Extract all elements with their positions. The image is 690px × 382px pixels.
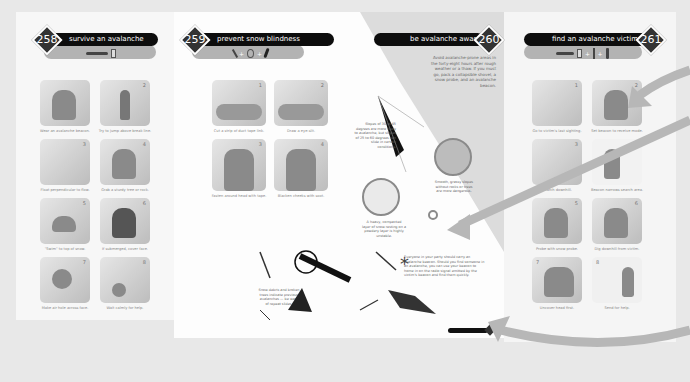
figure-illustration bbox=[112, 208, 136, 238]
shovel-icon bbox=[606, 48, 609, 59]
figure-illustration bbox=[112, 149, 136, 179]
step-caption: "Swim" to top of snow. bbox=[45, 247, 86, 252]
step-caption: Wear an avalanche beacon. bbox=[40, 129, 90, 134]
tape-illustration bbox=[216, 104, 262, 120]
magnifier-grassy-slope bbox=[434, 138, 472, 176]
plus-icon: + bbox=[239, 50, 244, 57]
plus-icon: + bbox=[598, 50, 603, 57]
step-panel: 3Float perpendicular to flow. bbox=[40, 139, 90, 198]
figure-illustration bbox=[52, 90, 76, 120]
step-panel: 1Cut a strip of duct tape link. bbox=[212, 80, 266, 139]
step-panel: 7Make air hole across face. bbox=[40, 257, 90, 316]
intro-text: Avoid avalanche-prone areas in the forty… bbox=[430, 55, 496, 88]
step-panel: 3Fasten around head with tape. bbox=[212, 139, 266, 204]
step-caption: Fasten around head with tape. bbox=[212, 194, 267, 199]
step-panel: 5"Swim" to top of snow. bbox=[40, 198, 90, 257]
step-panel: 2Draw a eye-slit. bbox=[274, 80, 328, 139]
person-illustration bbox=[224, 149, 254, 191]
figure-illustration bbox=[52, 269, 72, 289]
beacon-unit-icon bbox=[111, 49, 116, 58]
header-259: 259 prevent snow blindness + + bbox=[184, 33, 334, 63]
magnifier-snow-layers bbox=[362, 178, 400, 216]
step-caption: Grab a sturdy tree or rock. bbox=[101, 188, 149, 193]
svg-text:*: * bbox=[400, 253, 409, 274]
step-panel: 5Probe with snow probe. bbox=[532, 198, 582, 257]
figure-illustration bbox=[112, 283, 126, 297]
section-number: 258 bbox=[32, 25, 62, 55]
step-panel: 4Grab a sturdy tree or rock. bbox=[100, 139, 150, 198]
probe-icon bbox=[593, 48, 595, 59]
tool-icons bbox=[86, 49, 116, 58]
step-caption: Search downhill. bbox=[542, 188, 572, 193]
step-panel: 6Dig downhill from victim. bbox=[592, 198, 642, 257]
step-caption: Go to victim's last sighting. bbox=[532, 129, 581, 134]
avalanche-debris-illustration: * bbox=[240, 250, 440, 340]
step-panel: 2Try to jump above break line. bbox=[100, 80, 150, 139]
tape-illustration bbox=[278, 104, 324, 120]
step-panel: 7Uncover head first. bbox=[532, 257, 582, 316]
steps-grid-259: 1Cut a strip of duct tape link. 2Draw a … bbox=[212, 80, 328, 204]
step-panel: 8Wait calmly for help. bbox=[100, 257, 150, 316]
step-panel: 8Send for help. bbox=[592, 257, 642, 316]
step-caption: Send for help. bbox=[604, 306, 629, 311]
section-title: prevent snow blindness bbox=[217, 33, 300, 46]
person-illustration bbox=[604, 149, 620, 179]
plus-icon: + bbox=[585, 50, 590, 57]
note-grassy-slopes: Smooth, grassy slopes without rocks or t… bbox=[434, 180, 474, 194]
header-261: find an avalanche victim 261 + + bbox=[524, 33, 674, 63]
section-title: find an avalanche victim bbox=[552, 33, 638, 46]
step-panel: 6If submerged, cover face. bbox=[100, 198, 150, 257]
step-caption: Set beacon to receive mode. bbox=[591, 129, 643, 134]
section-title: survive an avalanche bbox=[69, 33, 144, 46]
section-title: be avalanche aware bbox=[410, 33, 481, 46]
person-illustration bbox=[544, 267, 574, 297]
step-caption: Blacken cheeks with soot. bbox=[278, 194, 325, 199]
tool-icons: + + bbox=[556, 48, 609, 59]
steps-grid-261: 1Go to victim's last sighting. 2Set beac… bbox=[532, 80, 642, 316]
tape-icon bbox=[247, 49, 254, 58]
step-panel: 4Blacken cheeks with soot. bbox=[274, 139, 328, 204]
avalanche-beacon-icon bbox=[556, 52, 574, 55]
step-caption: Beacon narrows search area. bbox=[591, 188, 643, 193]
step-caption: Try to jump above break line. bbox=[99, 129, 151, 134]
figure-illustration bbox=[52, 216, 76, 232]
step-caption: Uncover head first. bbox=[540, 306, 574, 311]
step-panel: 4Beacon narrows search area. bbox=[592, 139, 642, 198]
step-caption: Probe with snow probe. bbox=[536, 247, 578, 252]
magnifier-target bbox=[428, 210, 438, 220]
section-number: 260 bbox=[474, 25, 504, 55]
step-caption: Make air hole across face. bbox=[42, 306, 89, 311]
step-caption: Cut a strip of duct tape link. bbox=[214, 129, 264, 134]
note-slope-angle: Slopes of 30 to 45 degrees are more like… bbox=[352, 122, 396, 150]
step-caption: Draw a eye-slit. bbox=[287, 129, 315, 134]
step-caption: Dig downhill from victim. bbox=[595, 247, 640, 252]
person-illustration bbox=[604, 208, 628, 238]
avalanche-beacon-icon bbox=[86, 52, 108, 55]
step-panel: 1Go to victim's last sighting. bbox=[532, 80, 582, 139]
person-illustration bbox=[544, 208, 568, 238]
step-panel: 3Search downhill. bbox=[532, 139, 582, 198]
person-illustration bbox=[286, 149, 316, 191]
figure-illustration bbox=[120, 90, 130, 120]
footer-page-tab bbox=[448, 328, 488, 333]
section-number: 261 bbox=[636, 25, 666, 55]
tool-icons: + + bbox=[234, 48, 268, 58]
steps-grid-258: Wear an avalanche beacon. 2Try to jump a… bbox=[40, 80, 150, 316]
step-caption: If submerged, cover face. bbox=[102, 247, 148, 252]
header-258: 258 survive an avalanche bbox=[34, 33, 164, 63]
note-snow-layers: A heavy, compacted layer of snow resting… bbox=[362, 220, 406, 238]
plus-icon: + bbox=[257, 50, 262, 57]
section-number: 259 bbox=[180, 25, 210, 55]
step-panel: Wear an avalanche beacon. bbox=[40, 80, 90, 139]
step-caption: Float perpendicular to flow. bbox=[40, 188, 89, 193]
person-illustration bbox=[622, 267, 634, 297]
step-caption: Wait calmly for help. bbox=[106, 306, 143, 311]
step-panel: 2Set beacon to receive mode. bbox=[592, 80, 642, 139]
beacon-unit-icon bbox=[577, 49, 582, 58]
person-illustration bbox=[604, 90, 628, 120]
